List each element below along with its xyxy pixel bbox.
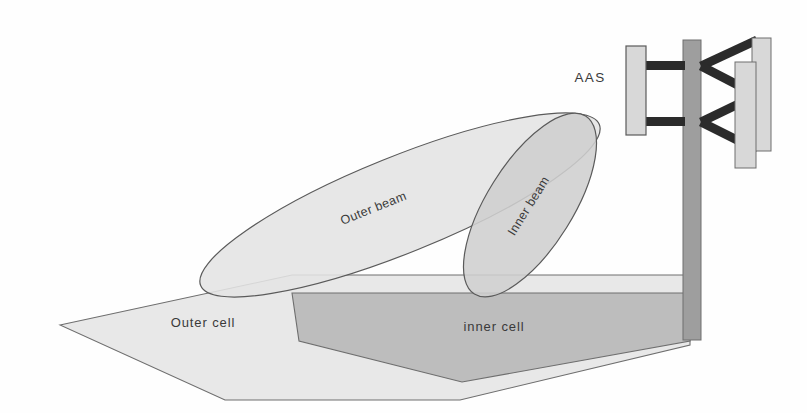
inner-cell-label: inner cell xyxy=(463,319,524,334)
tower-mast xyxy=(683,40,701,340)
beam-coverage-diagram: AAS Outer beam Inner beam Outer cell inn… xyxy=(0,0,807,413)
aas-antenna-panel xyxy=(626,46,646,135)
outer-cell-label: Outer cell xyxy=(171,315,236,330)
strut-lower xyxy=(645,117,685,126)
ground-cells-group xyxy=(60,275,690,400)
strut-upper xyxy=(645,61,685,70)
aas-label: AAS xyxy=(574,70,605,85)
tower-panel-right xyxy=(735,62,756,168)
diagram-canvas: AAS Outer beam Inner beam Outer cell inn… xyxy=(0,0,807,413)
